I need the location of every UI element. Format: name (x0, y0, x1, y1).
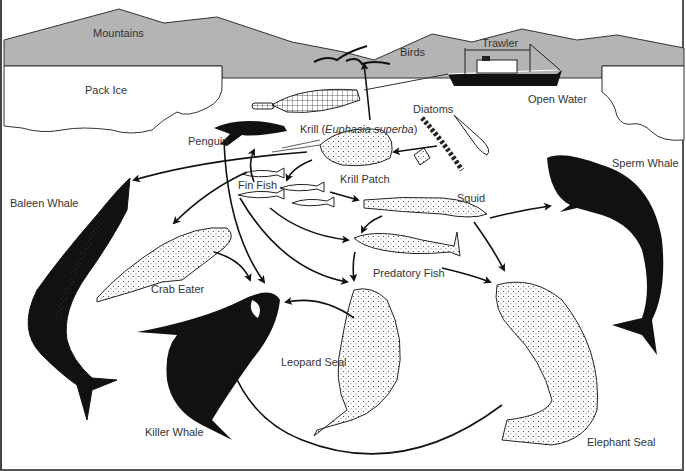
arrow-penguin-killer (224, 140, 264, 282)
arrow-krill-finfish (287, 160, 312, 180)
label-diatoms: Diatoms (413, 104, 453, 115)
label-squid: Squid (457, 193, 485, 204)
label-baleen-whale: Baleen Whale (10, 198, 79, 209)
label-leopard-seal: Leopard Seal (281, 357, 346, 368)
krill-net-icon (252, 89, 360, 112)
arrow-leopard-killer (286, 300, 354, 318)
arrow-squid-predfish (362, 216, 382, 232)
label-krill-patch: Krill Patch (340, 174, 390, 185)
label-mountains: Mountains (93, 28, 144, 39)
arrow-predfish-leopard (353, 252, 355, 280)
label-trawler: Trawler (482, 38, 518, 49)
arrow-diatoms-krill (394, 146, 437, 152)
arrow-predfish-elephant (442, 268, 490, 282)
label-crab-eater: Crab Eater (151, 284, 204, 295)
arrow-krill-crabeater (174, 172, 247, 223)
label-elephant-seal: Elephant Seal (587, 437, 656, 448)
predatory-fish-icon (354, 232, 460, 256)
label-birds: Birds (400, 47, 425, 58)
label-krill: Krill (Euphasia superba) (300, 124, 417, 135)
label-penguin: Penguin (188, 136, 228, 147)
label-sperm-whale: Sperm Whale (612, 158, 679, 169)
arrow-finfish-predfish (270, 208, 348, 240)
pack-ice-shape (4, 66, 222, 133)
label-fin-fish: Fin Fish (238, 180, 277, 191)
label-predatory-fish: Predatory Fish (373, 268, 445, 279)
baleen-whale-icon (28, 178, 130, 420)
right-ice-shape (602, 66, 684, 140)
arrow-squid-sperm (490, 206, 550, 218)
arrow-crabeater-killer (214, 252, 250, 280)
diatoms-icon (414, 115, 489, 170)
label-open-water: Open Water (528, 94, 587, 105)
killer-whale-icon (137, 293, 280, 441)
arrow-krill-penguin (251, 150, 255, 182)
elephant-seal-icon (496, 282, 598, 445)
diagram-canvas (2, 0, 686, 471)
label-killer-whale: Killer Whale (145, 427, 204, 438)
label-pack-ice: Pack Ice (85, 85, 127, 96)
arrow-squid-elephant (474, 222, 504, 270)
